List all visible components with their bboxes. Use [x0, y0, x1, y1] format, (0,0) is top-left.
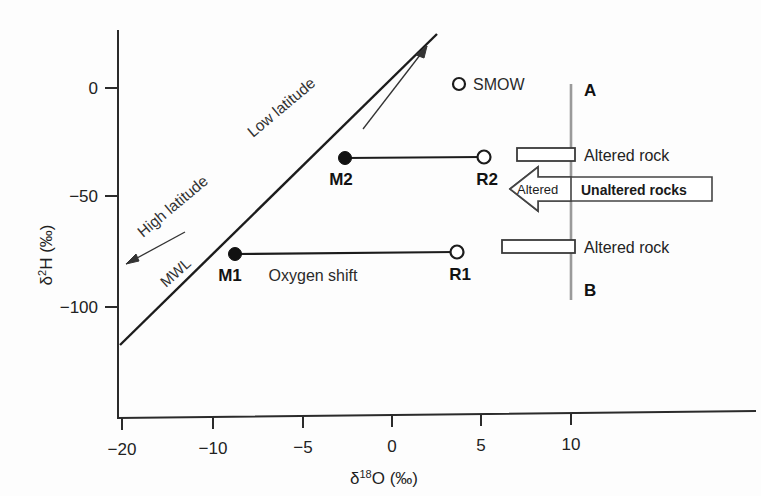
- x-axis-title: δ18O (‰): [350, 468, 418, 488]
- marker-m1: [229, 248, 242, 261]
- label-oxygen-shift: Oxygen shift: [269, 267, 358, 284]
- low-latitude-annotation: Low latitude: [244, 46, 427, 140]
- label-altered-rock-bottom: Altered rock: [584, 239, 670, 256]
- low-latitude-arrow-shaft: [363, 46, 427, 129]
- label-low-latitude: Low latitude: [244, 74, 318, 140]
- label-high-latitude: High latitude: [134, 172, 211, 240]
- y-tick-label-0: 0: [89, 79, 98, 98]
- mwl-series: [120, 34, 437, 345]
- label-unaltered-rocks: Unaltered rocks: [581, 182, 687, 198]
- label-altered-rock-top: Altered rock: [584, 147, 670, 164]
- marker-r2: [478, 151, 491, 164]
- oxygen-shift-series-m2-r2: M2 R2: [329, 151, 498, 190]
- x-tick-label-0: 0: [387, 437, 396, 456]
- oxygen-shift-series-m1-r1: M1 R1 Oxygen shift: [218, 246, 471, 286]
- marker-smow: [453, 78, 465, 90]
- x-tick-label-minus20: −20: [108, 440, 137, 459]
- svg-text:δ18O (‰): δ18O (‰): [350, 468, 418, 488]
- label-r1: R1: [449, 265, 471, 284]
- label-smow: SMOW: [473, 76, 525, 93]
- label-m1: M1: [218, 266, 242, 285]
- x-axis-title-sup: 18: [359, 468, 371, 480]
- figure-root: 0 −50 −100 −20 −10 −5 0 5 10 δ18O (‰): [0, 0, 761, 496]
- y-tick-label-minus50: −50: [69, 187, 98, 206]
- x-tick-label-5: 5: [476, 436, 485, 455]
- x-tick-label-minus10: −10: [199, 439, 228, 458]
- mwl-label-group: MWL: [157, 254, 194, 290]
- label-altered-in-arrow: Altered: [517, 182, 558, 197]
- axes-group: 0 −50 −100 −20 −10 −5 0 5 10 δ18O (‰): [36, 31, 755, 488]
- altered-rock-bar-bottom: [502, 240, 575, 253]
- marker-m2: [339, 152, 352, 165]
- label-mwl: MWL: [157, 254, 194, 290]
- x-axis-line: [118, 411, 755, 418]
- mwl-line: [120, 34, 437, 345]
- y-axis-title-rest: H (‰): [37, 225, 56, 270]
- label-a: A: [584, 81, 596, 100]
- x-axis-title-delta: δ: [350, 469, 359, 488]
- label-m2: M2: [329, 170, 353, 189]
- x-tick-label-minus5: −5: [293, 438, 312, 457]
- x-axis-title-rest: O (‰): [372, 469, 418, 488]
- svg-text:δ2H (‰): δ2H (‰): [36, 225, 56, 286]
- y-axis-title-delta: δ: [37, 276, 56, 285]
- high-latitude-arrow-head: [126, 254, 139, 264]
- label-r2: R2: [476, 170, 498, 189]
- alteration-front-diagram: A B Altered rock Altered rock Altered Un…: [502, 81, 712, 300]
- label-b: B: [584, 281, 596, 300]
- y-axis-title: δ2H (‰): [36, 225, 56, 286]
- isotope-scatter-figure: 0 −50 −100 −20 −10 −5 0 5 10 δ18O (‰): [0, 0, 761, 496]
- altered-rock-bar-top: [517, 148, 575, 161]
- marker-r1: [451, 246, 464, 259]
- high-latitude-annotation: High latitude: [126, 172, 211, 264]
- y-tick-label-minus100: −100: [60, 298, 98, 317]
- x-tick-label-10: 10: [562, 435, 581, 454]
- smow-point-group: SMOW: [453, 76, 525, 93]
- shift-line-m2-r2: [345, 157, 482, 158]
- shift-line-m1-r1: [235, 252, 455, 254]
